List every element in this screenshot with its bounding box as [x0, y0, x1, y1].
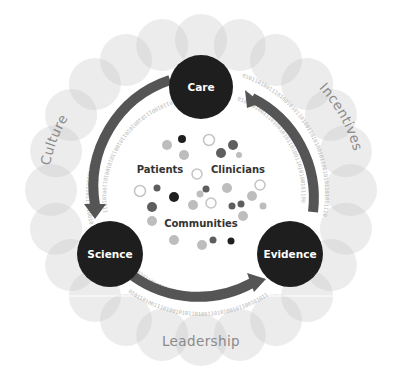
- label-patients: Patients: [137, 164, 184, 175]
- care-cycle-diagram: Culture Incentives Leadership 0101101001…: [0, 0, 401, 377]
- population-dots: [135, 135, 267, 251]
- label-clinicians: Clinicians: [211, 164, 265, 175]
- node-care: Care: [169, 55, 233, 119]
- node-science-label: Science: [87, 248, 132, 260]
- ring-label-leadership: Leadership: [162, 333, 240, 349]
- node-care-label: Care: [187, 81, 214, 93]
- node-evidence-label: Evidence: [263, 248, 316, 260]
- node-science: Science: [77, 221, 143, 287]
- node-evidence: Evidence: [257, 221, 323, 287]
- label-communities: Communities: [164, 218, 238, 229]
